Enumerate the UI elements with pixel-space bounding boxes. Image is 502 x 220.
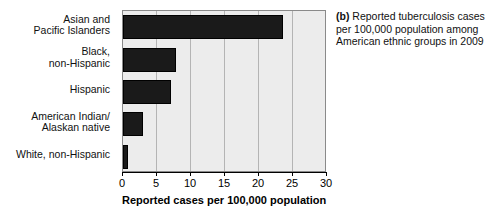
category-label: Black,non-Hispanic — [0, 46, 110, 69]
bar — [123, 15, 283, 39]
x-tick-label-30: 30 — [311, 177, 341, 190]
bar — [123, 112, 143, 136]
category-label-line: Pacific Islanders — [0, 25, 110, 37]
x-tick-10 — [190, 172, 191, 176]
x-tick-label-10: 10 — [175, 177, 205, 190]
gridline-25 — [292, 11, 293, 171]
category-label-line: Hispanic — [0, 84, 110, 96]
x-tick-15 — [224, 172, 225, 176]
x-tick-label-5: 5 — [141, 177, 171, 190]
category-axis-labels: Asian andPacific IslandersBlack,non-Hisp… — [0, 10, 114, 172]
bar — [123, 145, 128, 169]
category-label-line: White, non-Hispanic — [0, 149, 110, 161]
caption-tag: (b) — [336, 10, 349, 22]
x-tick-label-25: 25 — [277, 177, 307, 190]
caption-text: Reported tuberculosis cases per 100,000 … — [336, 10, 485, 47]
x-tick-label-0: 0 — [107, 177, 137, 190]
category-label-line: non-Hispanic — [0, 58, 110, 70]
x-tick-30 — [326, 172, 327, 176]
category-label-line: Black, — [0, 46, 110, 58]
category-label-line: Alaskan native — [0, 122, 110, 134]
x-axis-title: Reported cases per 100,000 population — [122, 194, 326, 206]
plot-area — [122, 10, 326, 172]
x-tick-25 — [292, 172, 293, 176]
x-tick-20 — [258, 172, 259, 176]
category-label: White, non-Hispanic — [0, 149, 110, 161]
figure-panel-b: Asian andPacific IslandersBlack,non-Hisp… — [0, 0, 502, 220]
bar — [123, 80, 171, 104]
x-tick-5 — [156, 172, 157, 176]
x-tick-0 — [122, 172, 123, 176]
figure-caption: (b) Reported tuberculosis cases per 100,… — [336, 10, 498, 48]
x-tick-label-20: 20 — [243, 177, 273, 190]
x-tick-label-15: 15 — [209, 177, 239, 190]
bar — [123, 48, 176, 72]
category-label: American Indian/Alaskan native — [0, 111, 110, 134]
category-label: Asian andPacific Islanders — [0, 14, 110, 37]
category-label: Hispanic — [0, 84, 110, 96]
